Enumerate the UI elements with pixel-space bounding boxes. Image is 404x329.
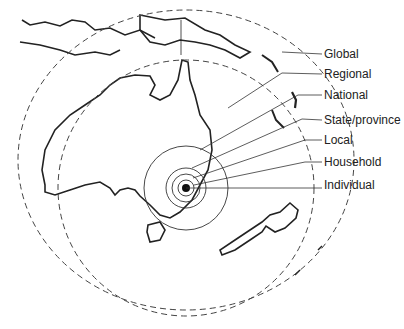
label-global: Global bbox=[324, 47, 359, 61]
label-national: National bbox=[324, 88, 368, 102]
leader-lines bbox=[186, 52, 322, 188]
label-individual: Individual bbox=[324, 178, 375, 192]
dashed-scale-circles bbox=[18, 10, 354, 316]
label-state-province: State/province bbox=[324, 113, 401, 127]
label-regional: Regional bbox=[324, 67, 371, 81]
label-local: Local bbox=[324, 133, 353, 147]
scales-diagram: Global Regional National State/province … bbox=[0, 0, 404, 329]
label-household: Household bbox=[324, 155, 381, 169]
